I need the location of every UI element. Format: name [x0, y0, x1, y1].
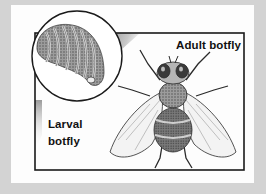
adult-botfly-drawing: [110, 50, 236, 168]
fly-thorax: [159, 82, 187, 108]
botfly-illustration: [0, 0, 266, 194]
larval-label-line1: Larval: [48, 116, 82, 133]
larval-botfly-label: Larval botfly: [48, 116, 82, 150]
larva-tail: [87, 77, 95, 83]
fly-abdomen: [154, 108, 192, 152]
larval-label-line2: botfly: [48, 133, 82, 150]
larva-inset: [32, 11, 122, 101]
adult-botfly-label: Adult botfly: [176, 37, 241, 54]
